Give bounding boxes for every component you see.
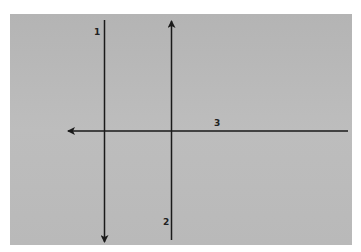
diagram-canvas <box>0 0 361 252</box>
line-1-label: 1 <box>94 28 100 37</box>
line-3-label: 3 <box>214 119 220 128</box>
line-2-label: 2 <box>163 218 169 227</box>
